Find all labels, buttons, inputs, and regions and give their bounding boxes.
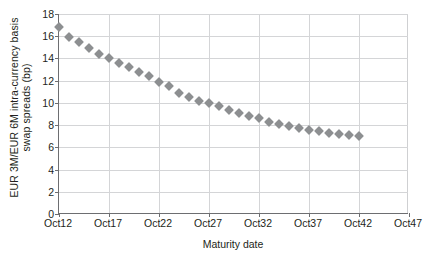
y-tick-mark	[55, 170, 59, 171]
data-point	[134, 67, 144, 77]
gridline-horizontal	[59, 81, 408, 82]
x-tick-label: Oct47	[394, 217, 422, 229]
y-tick-label: 8	[48, 119, 54, 131]
data-point	[164, 81, 174, 91]
gridline-vertical	[159, 14, 160, 213]
gridline-horizontal	[59, 147, 408, 148]
data-point	[74, 37, 84, 47]
data-point	[64, 32, 74, 42]
data-point	[104, 53, 114, 63]
data-point	[344, 130, 354, 140]
y-tick-mark	[55, 81, 59, 82]
data-point	[154, 77, 164, 87]
y-tick-label: 18	[42, 8, 54, 20]
data-point	[274, 119, 284, 129]
y-tick-mark	[55, 103, 59, 104]
x-tick-label: Oct17	[94, 217, 122, 229]
data-point	[244, 111, 254, 121]
data-point	[224, 105, 234, 115]
plot-frame-right	[407, 14, 408, 213]
y-axis-title-line2: swap spreads (bp)	[20, 63, 32, 151]
x-tick-label: Oct12	[44, 217, 72, 229]
data-point	[324, 128, 334, 138]
gridline-horizontal	[59, 103, 408, 104]
data-point	[204, 98, 214, 108]
y-tick-label: 16	[42, 30, 54, 42]
data-point	[334, 129, 344, 139]
data-point	[234, 108, 244, 118]
data-point	[84, 43, 94, 53]
data-point	[314, 126, 324, 136]
x-tick-label: Oct27	[194, 217, 222, 229]
data-point	[194, 96, 204, 106]
gridline-vertical	[359, 14, 360, 213]
y-tick-label: 4	[48, 164, 54, 176]
x-tick-label: Oct32	[244, 217, 272, 229]
y-tick-mark	[55, 58, 59, 59]
y-tick-mark	[55, 14, 59, 15]
gridline-vertical	[109, 14, 110, 213]
y-axis-tick-labels: 024681012141618	[34, 8, 54, 216]
x-tick-label: Oct22	[144, 217, 172, 229]
data-point	[354, 131, 364, 141]
data-point	[254, 113, 264, 123]
data-point	[124, 62, 134, 72]
x-tick-label: Oct37	[294, 217, 322, 229]
data-point	[284, 121, 294, 131]
gridline-horizontal	[59, 170, 408, 171]
y-axis-title-line1: EUR 3M/EUR 6M intra-currency basis	[8, 17, 20, 197]
gridline-vertical	[309, 14, 310, 213]
y-tick-label: 10	[42, 97, 54, 109]
plot-area	[58, 14, 408, 214]
y-tick-label: 6	[48, 141, 54, 153]
gridline-horizontal	[59, 14, 408, 15]
x-axis-tick-labels: Oct12Oct17Oct22Oct27Oct32Oct37Oct42Oct47	[58, 217, 408, 231]
gridline-horizontal	[59, 125, 408, 126]
y-tick-label: 2	[48, 186, 54, 198]
data-point	[54, 22, 64, 32]
chart-figure: EUR 3M/EUR 6M intra-currency basis swap …	[0, 0, 430, 262]
y-tick-mark	[55, 192, 59, 193]
x-axis-title: Maturity date	[58, 238, 408, 250]
data-point	[184, 92, 194, 102]
y-tick-mark	[55, 147, 59, 148]
y-tick-mark	[55, 125, 59, 126]
gridline-horizontal	[59, 192, 408, 193]
gridline-horizontal	[59, 36, 408, 37]
x-tick-label: Oct42	[344, 217, 372, 229]
y-tick-label: 12	[42, 75, 54, 87]
data-point	[174, 88, 184, 98]
y-tick-label: 14	[42, 52, 54, 64]
gridline-vertical	[209, 14, 210, 213]
y-tick-mark	[55, 36, 59, 37]
